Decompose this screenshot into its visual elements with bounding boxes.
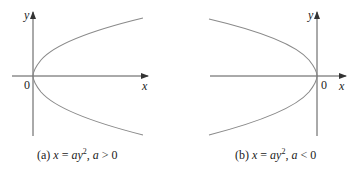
panel-b-caption: (b) x = ay2, a < 0 (235, 148, 316, 162)
panel-a-origin-label: 0 (24, 79, 30, 91)
panel-b-y-label: y (308, 9, 313, 21)
caption-cond-val: 0 (310, 148, 316, 162)
caption-cond-op: > (99, 148, 112, 162)
panel-a-caption: (a) x = ay2, a > 0 (37, 148, 118, 162)
panel-a-plot (12, 12, 148, 136)
panel-b-plot (209, 12, 346, 136)
panel-a-x-label: x (142, 80, 147, 92)
panel-a-y-label: y (24, 9, 29, 21)
panel-b-parabola (209, 19, 317, 135)
panel-b-origin-label: 0 (321, 79, 327, 91)
caption-eq: = (59, 148, 72, 162)
panel-b-x-label: x (339, 80, 344, 92)
caption-prefix: (a) (37, 148, 50, 162)
caption-cond-op: < (297, 148, 310, 162)
caption-eq: = (257, 148, 270, 162)
caption-cond-val: 0 (112, 148, 118, 162)
caption-prefix: (b) (235, 148, 249, 162)
